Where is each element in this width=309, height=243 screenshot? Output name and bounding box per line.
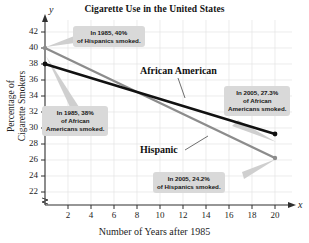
y-axis-title-line1: Percentage of bbox=[6, 80, 16, 132]
y-axis-title: Percentage of Cigarette Smokers bbox=[6, 41, 28, 171]
leader-line-hispanic bbox=[185, 136, 208, 150]
y-axis-break bbox=[42, 198, 48, 204]
callout-african-american-1985-line3: Americans smoked. bbox=[46, 125, 104, 133]
x-tick-label-12: 12 bbox=[176, 210, 190, 220]
series-label-african-american: African American bbox=[140, 65, 217, 76]
callout-african-american-1985-line2: of African bbox=[46, 117, 104, 125]
series-point-african-american-start bbox=[43, 62, 48, 67]
callout-african-american-1985: In 1985, 38% of African Americans smoked… bbox=[42, 106, 108, 136]
chart-figure: Cigarette Use in the United States bbox=[0, 0, 309, 243]
callout-hispanic-2005-line2: of Hispanics smoked. bbox=[157, 183, 221, 191]
series-label-hispanic: Hispanic bbox=[140, 144, 178, 155]
y-axis-title-line2: Cigarette Smokers bbox=[17, 71, 27, 141]
x-axis-title: Number of Years after 1985 bbox=[0, 226, 309, 237]
callout-african-american-2005-line1: In 2005, 27.3% bbox=[228, 89, 286, 97]
y-tick-label-22: 22 bbox=[20, 186, 38, 196]
x-tick-label-16: 16 bbox=[222, 210, 236, 220]
x-axis-variable-label: x bbox=[298, 199, 302, 210]
x-tick-label-6: 6 bbox=[107, 210, 121, 220]
x-tick-label-20: 20 bbox=[268, 210, 282, 220]
leader-line-african-american bbox=[178, 78, 185, 98]
y-axis-variable-label: y bbox=[49, 4, 53, 15]
callout-african-american-2005-line3: Americans smoked. bbox=[228, 105, 286, 113]
callout-hispanic-1985-line2: of Hispanics smoked. bbox=[77, 37, 141, 45]
series-point-hispanic-end bbox=[273, 156, 277, 160]
callout-african-american-1985-line1: In 1985, 38% bbox=[46, 109, 104, 117]
callout-african-american-2005: In 2005, 27.3% of African Americans smok… bbox=[224, 86, 290, 116]
series-point-african-american-end bbox=[273, 132, 278, 137]
callout-african-american-2005-line2: of African bbox=[228, 97, 286, 105]
callout-hispanic-2005-line1: In 2005, 24.2% bbox=[157, 175, 221, 183]
series-point-hispanic-start bbox=[43, 46, 47, 50]
x-tick-marks bbox=[68, 205, 275, 209]
x-tick-label-8: 8 bbox=[130, 210, 144, 220]
callout-hispanic-1985-line1: In 1985, 40% bbox=[77, 29, 141, 37]
x-axis-arrow bbox=[288, 202, 296, 208]
y-axis-arrow bbox=[42, 14, 48, 22]
x-tick-label-2: 2 bbox=[61, 210, 75, 220]
callout-hispanic-1985: In 1985, 40% of Hispanics smoked. bbox=[73, 26, 145, 47]
callout-hispanic-2005: In 2005, 24.2% of Hispanics smoked. bbox=[153, 172, 225, 193]
x-tick-label-18: 18 bbox=[245, 210, 259, 220]
y-tick-label-24: 24 bbox=[20, 170, 38, 180]
y-tick-label-42: 42 bbox=[20, 26, 38, 36]
x-tick-label-10: 10 bbox=[153, 210, 167, 220]
x-tick-label-14: 14 bbox=[199, 210, 213, 220]
x-tick-label-4: 4 bbox=[84, 210, 98, 220]
